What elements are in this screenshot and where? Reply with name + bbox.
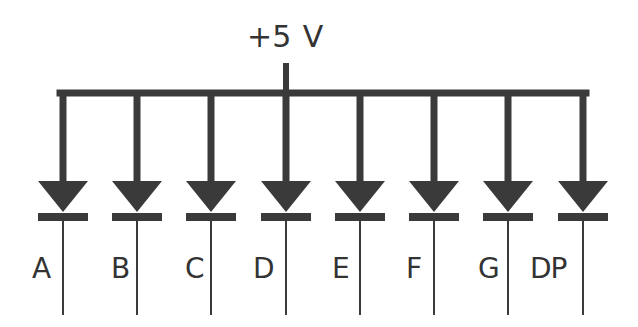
segment-label-dp: DP (530, 255, 566, 283)
cathode-bar-g (483, 213, 533, 221)
segment-label-c: C (185, 255, 204, 283)
segment-label-d: D (253, 255, 274, 283)
segment-label-g: G (478, 255, 499, 283)
diode-icon-a (38, 181, 88, 212)
supply-voltage-label: +5 V (247, 22, 323, 52)
diode-icon-g (483, 181, 533, 212)
cathode-bar-e (335, 213, 385, 221)
diode-icon-b (112, 181, 162, 212)
segment-label-b: B (111, 255, 129, 283)
diode-icon-d (261, 181, 311, 212)
diode-icon-f (409, 181, 459, 212)
segment-label-f: F (406, 255, 421, 283)
diode-icon-dp (558, 181, 608, 212)
cathode-bar-c (186, 213, 236, 221)
segment-label-e: E (332, 255, 349, 283)
segment-label-a: A (32, 255, 50, 283)
cathode-bar-b (112, 213, 162, 221)
cathode-bar-a (38, 213, 88, 221)
cathode-bar-f (409, 213, 459, 221)
cathode-bar-d (261, 213, 311, 221)
diode-icon-c (186, 181, 236, 212)
cathode-bar-dp (558, 213, 608, 221)
diode-icon-e (335, 181, 385, 212)
